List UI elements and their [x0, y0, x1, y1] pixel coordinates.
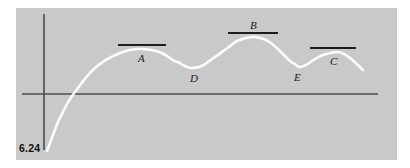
figure-number-label: 6.24 [19, 143, 40, 154]
axes-group [22, 14, 378, 150]
point-label-d: D [190, 73, 198, 84]
point-label-b: B [250, 20, 257, 31]
plot-canvas [0, 0, 410, 168]
point-label-c: C [330, 56, 337, 67]
point-label-a: A [138, 53, 145, 64]
figure-container: A B C D E 6.24 [0, 0, 410, 168]
point-label-e: E [294, 72, 301, 83]
